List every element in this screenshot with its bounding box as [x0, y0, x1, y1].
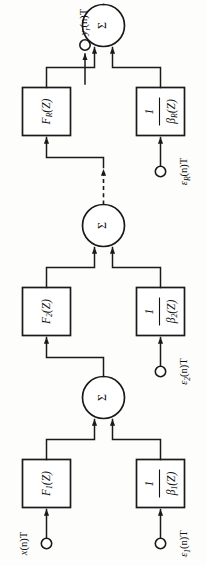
diagram-canvas: x(n)T F1(Z) ε1(n)T 1: [0, 0, 206, 565]
figure-container: x(n)T F1(Z) ε1(n)T 1: [0, 0, 206, 565]
output-branch-svg: [0, 0, 206, 565]
